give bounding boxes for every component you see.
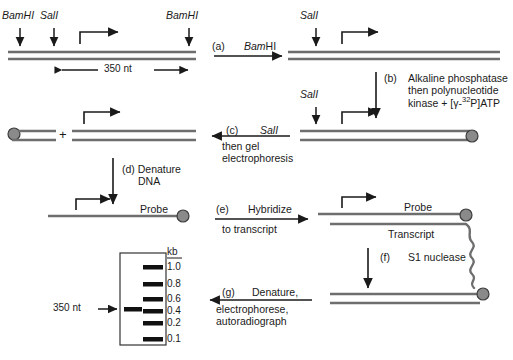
promoter-arrow-cut-products [84,112,120,124]
ladder-label-6: 0.1 [167,333,181,345]
site-label-sal1-left: SalI [40,9,58,21]
step-f-label: S1 nuclease [408,251,466,263]
step-c-label: SalI [260,124,278,136]
ladder-band [143,297,163,302]
step-b-line3: kinase + [γ-32P]ATP [408,96,508,109]
transcript-label: Transcript [388,228,434,240]
ladder-band [143,309,163,314]
large-fragment [72,131,196,140]
ladder-label-2: 0.8 [167,278,181,290]
step-f-letter: (f) [380,251,390,263]
gel-sample-label: 350 nt [53,302,81,314]
wavy-rna-tail [466,224,474,288]
gel-sample-band [124,307,142,312]
step-b-letter: (b) [384,72,397,84]
length-label-350nt: 350 nt [104,63,132,75]
promoter-arrow-top-right [342,32,378,44]
site-label-bamhi-right: BamHI [166,9,198,21]
ladder-band [143,321,163,326]
hybrid-probe-label: Probe [404,201,432,213]
top-right-duplex [288,52,500,59]
step-g-letter: (g) [222,286,235,298]
ladder-label-1: 1.0 [167,261,181,273]
step-c-letter: (c) [226,124,238,136]
step-a-letter: (a) [212,40,225,52]
small-fragment [8,128,56,140]
step-e-letter: (e) [216,203,229,215]
site-label-sal1-mid: SalI [300,88,318,100]
step-b-label: Alkaline phosphatase then polynucleotide… [408,72,508,109]
step-c-sublabel: then gel electrophoresis [222,140,293,164]
gel-axis-title: kb [167,246,178,258]
probe-label: Probe [140,203,168,215]
promoter-arrow-mid-right [342,112,378,124]
top-left-duplex [8,52,196,59]
ladder-band [143,282,163,287]
step-g-label: Denature, [252,286,298,298]
ladder-label-3: 0.6 [167,293,181,305]
step-e-label: Hybridize [248,203,292,215]
step-g-sublabel: electrophorese, autoradiograph [216,303,288,327]
restriction-site-arrows-left [20,28,189,46]
ladder-label-4: 0.4 [167,305,181,317]
site-label-sal1-top-right: SalI [300,9,318,21]
site-label-bamhi-left: BamHI [2,9,34,21]
step-a-label: BamHI [244,40,276,52]
promoter-arrow-top-left [80,32,118,44]
ladder-label-5: 0.2 [167,317,181,329]
radiolabel-circle [466,130,478,142]
ladder-band [143,265,163,270]
promoter-arrow-hybrid [342,197,376,208]
ladder-band [143,337,163,342]
plus-sign: + [59,128,67,143]
step-e-sublabel: to transcript [222,223,277,235]
figure-canvas: BamHI SalI BamHI 350 nt (a) BamHI SalI (… [0,0,513,360]
end-labeled-duplex [300,130,478,142]
radiolabel-circle-protected [477,288,489,300]
protected-duplex [330,288,489,303]
step-d-label: (d) Denature DNA [122,163,181,187]
promoter-arrow-probe [76,199,110,210]
radiolabel-circle-probe [177,210,189,222]
radiolabel-circle-hybrid [460,209,472,221]
hybrid-probe-transcript [318,209,474,288]
